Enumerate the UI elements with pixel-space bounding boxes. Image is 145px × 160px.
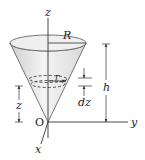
slice-height-label: z bbox=[15, 99, 22, 112]
height-label: h bbox=[103, 81, 110, 94]
slice-thickness-label: dz bbox=[78, 96, 91, 109]
y-axis-label: y bbox=[130, 116, 138, 129]
slice-radius-label: r bbox=[55, 72, 60, 82]
x-axis-label: x bbox=[35, 143, 42, 156]
top-radius-label: R bbox=[62, 29, 71, 42]
cone-diagram: z R r h dz z O y x bbox=[0, 0, 145, 160]
z-axis-label: z bbox=[44, 6, 51, 19]
origin-label: O bbox=[35, 116, 44, 129]
